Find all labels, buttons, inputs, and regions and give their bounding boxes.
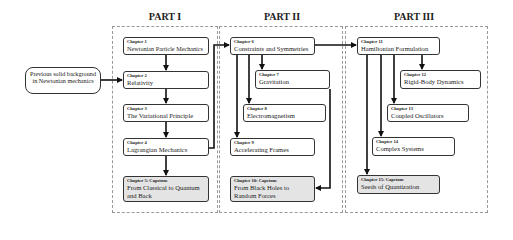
chapter-title: Complex Systems xyxy=(376,145,451,153)
chapter-7-box: Chapter 7 Gravitation xyxy=(255,70,330,89)
chapter-11-box: Chapter 11 Hamiltonian Formulation xyxy=(357,37,440,55)
chapter-title: The Variational Principle xyxy=(127,112,205,120)
prerequisite-box: Previous solid background in Newtonian m… xyxy=(25,67,101,94)
chapter-10-capstone-box: Chapter 10: Capstone From Black Holes to… xyxy=(230,176,315,202)
chapter-9-box: Chapter 9 Accelerating Frames xyxy=(230,138,315,156)
chapter-12-box: Chapter 12 Rigid-Body Dynamics xyxy=(400,70,481,89)
chapter-14-box: Chapter 14 Complex Systems xyxy=(372,137,455,156)
chapter-title: Newtonian Particle Mechanics xyxy=(127,45,205,53)
chapter-title: Rigid-Body Dynamics xyxy=(404,78,477,86)
chapter-title: Seeds of Quantization xyxy=(361,183,436,191)
chapter-title: From Classical to Quantum and Back xyxy=(127,184,205,199)
chapter-title: Accelerating Frames xyxy=(234,146,311,154)
chapter-8-box: Chapter 8 Electromagnetism xyxy=(243,104,326,122)
chapter-title: Coupled Oscillators xyxy=(391,112,465,120)
chapter-2-box: Chapter 2 Relativity xyxy=(123,71,209,89)
chapter-title: Electromagnetism xyxy=(247,112,322,120)
chapter-15-capstone-box: Chapter 15: Capstone Seeds of Quantizati… xyxy=(357,175,440,194)
chapter-title: Hamiltonian Formulation xyxy=(361,45,436,53)
chapter-title: Constraints and Symmetries xyxy=(234,45,311,53)
chapter-5-capstone-box: Chapter 5: Capstone From Classical to Qu… xyxy=(123,176,209,202)
chapter-title: From Black Holes to Random Forces xyxy=(234,184,311,199)
chapter-3-box: Chapter 3 The Variational Principle xyxy=(123,104,209,122)
chapter-title: Relativity xyxy=(127,79,205,87)
chapter-4-box: Chapter 4 Lagrangian Mechanics xyxy=(123,138,209,156)
chapter-title: Lagrangian Mechanics xyxy=(127,146,205,154)
chapter-13-box: Chapter 13 Coupled Oscillators xyxy=(387,104,469,122)
chapter-1-box: Chapter 1 Newtonian Particle Mechanics xyxy=(123,37,209,55)
chapter-6-box: Chapter 6 Constraints and Symmetries xyxy=(230,37,315,55)
chapter-title: Gravitation xyxy=(259,78,326,86)
